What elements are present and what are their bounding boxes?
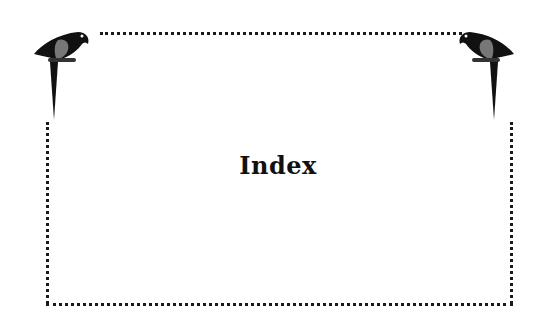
parrot-icon	[458, 26, 518, 122]
parrot-icon	[30, 26, 90, 122]
frame-bottom-border	[46, 303, 513, 306]
frame-top-border	[100, 32, 462, 35]
page-title: Index	[0, 151, 546, 180]
frame-right-border	[510, 122, 513, 304]
frame-left-border	[46, 122, 49, 304]
